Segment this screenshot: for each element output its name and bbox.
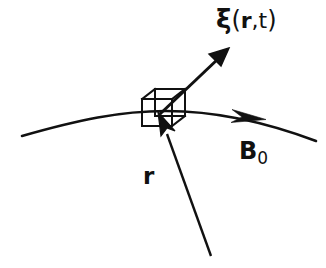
displacement-vector-arrow [160, 48, 229, 114]
xi-time-argument: t [259, 8, 268, 33]
field-line-arrow-head-icon [231, 110, 266, 123]
position-vector-shaft [167, 134, 211, 256]
displacement-vector-shaft [160, 58, 219, 114]
xi-close-paren: ) [267, 6, 276, 34]
position-vector-label: r [143, 165, 154, 188]
box-edge-top-left [142, 89, 155, 99]
magnetic-field-label: B0 [239, 139, 268, 167]
box-edge-bottom-right [172, 116, 185, 126]
xi-symbol: ξ [216, 4, 231, 34]
figure-canvas: ξ(r,t) B0 r [0, 0, 326, 268]
displacement-vector-label: ξ(r,t) [216, 6, 277, 32]
b-subscript: 0 [257, 148, 268, 168]
vector-diagram [0, 0, 326, 268]
xi-position-argument: r [241, 8, 252, 33]
xi-open-paren: ( [231, 6, 240, 34]
xi-comma: , [252, 8, 259, 33]
position-vector-arrow [158, 112, 211, 256]
b-symbol: B [239, 137, 257, 165]
